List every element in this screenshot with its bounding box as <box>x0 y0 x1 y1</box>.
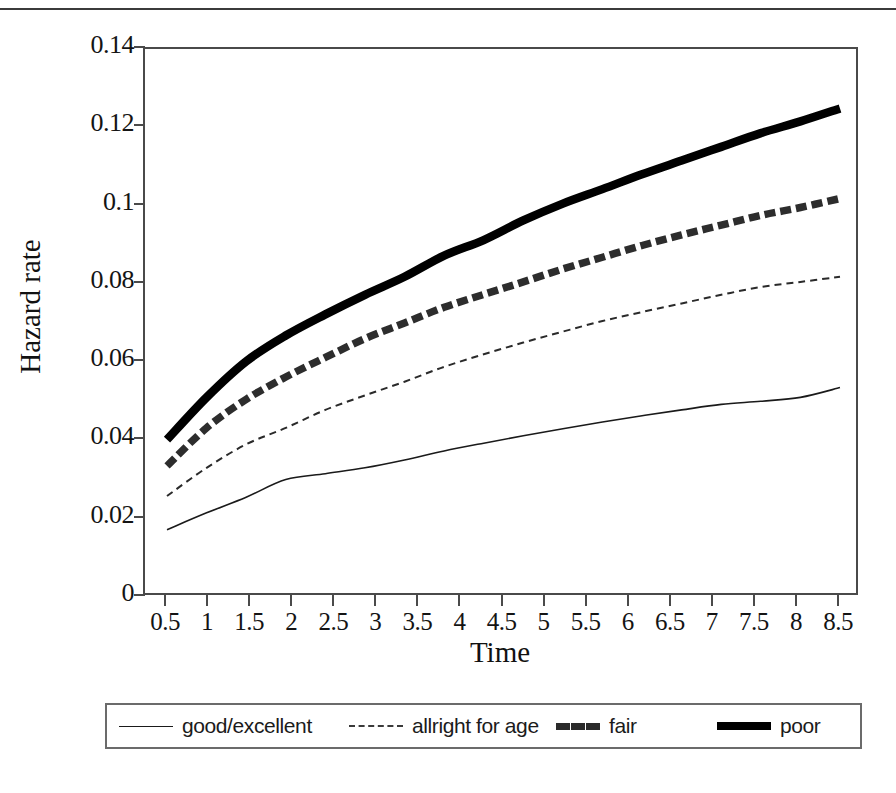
plot-curves <box>145 49 860 597</box>
x-axis-tick-mark <box>290 595 292 606</box>
y-axis-tick-label: 0.14 <box>91 30 135 60</box>
x-axis-tick-label: 5.5 <box>571 608 601 636</box>
series-line-good-excellent <box>167 388 840 530</box>
x-axis-tick-mark <box>837 595 839 606</box>
x-axis-tick-mark <box>458 595 460 606</box>
y-axis-tick-label: 0.1 <box>103 187 134 217</box>
thick-solid-line-icon <box>717 722 771 730</box>
x-axis-tick-mark <box>374 595 376 606</box>
x-axis-tick-mark <box>206 595 208 606</box>
legend-entry-label: poor <box>780 714 820 738</box>
x-axis-tick-label: 8 <box>790 608 802 636</box>
x-axis-tick-label: 3 <box>369 608 381 636</box>
y-axis-tick-label: 0.02 <box>91 500 135 530</box>
y-axis-tick-label: 0.04 <box>91 421 135 451</box>
x-axis-tick-mark <box>501 595 503 606</box>
x-axis-tick-label: 0.5 <box>150 608 180 636</box>
legend-entry[interactable]: allright for age <box>349 705 539 747</box>
x-axis-tick-mark <box>543 595 545 606</box>
x-axis-tick-label: 7 <box>706 608 718 636</box>
y-axis-tick-label: 0 <box>122 578 135 608</box>
series-line-fair <box>167 199 840 466</box>
x-axis-tick-mark <box>164 595 166 606</box>
x-axis-tick-label: 8.5 <box>823 608 853 636</box>
x-axis-tick-label: 4.5 <box>487 608 517 636</box>
x-axis-tick-mark <box>332 595 334 606</box>
x-axis-tick-label: 2.5 <box>318 608 348 636</box>
y-axis-tick-labels: 00.020.040.060.080.10.120.14 <box>48 0 134 793</box>
x-axis-tick-mark <box>669 595 671 606</box>
legend-entry-label: good/excellent <box>182 714 312 738</box>
thick-dashed-line-icon <box>556 723 600 730</box>
legend-entry[interactable]: poor <box>717 705 820 747</box>
x-axis-tick-mark <box>248 595 250 606</box>
x-axis-tick-mark <box>585 595 587 606</box>
x-axis-tick-label: 7.5 <box>739 608 769 636</box>
x-axis-tick-label: 6 <box>622 608 634 636</box>
x-axis-tick-mark <box>416 595 418 606</box>
legend-entry[interactable]: good/excellent <box>119 705 312 747</box>
y-axis-tick-label: 0.12 <box>91 108 135 138</box>
legend-entry-label: allright for age <box>412 714 539 738</box>
legend-entry-label: fair <box>609 714 637 738</box>
legend-box: good/excellentallright for agefairpoor <box>105 703 862 749</box>
series-line-poor <box>167 109 840 440</box>
y-axis-tick-label: 0.06 <box>91 343 135 373</box>
x-axis-tick-label: 4 <box>453 608 465 636</box>
x-axis-tick-label: 1 <box>201 608 213 636</box>
x-axis-tick-mark <box>753 595 755 606</box>
legend-entry[interactable]: fair <box>556 705 637 747</box>
plot-area <box>143 47 858 595</box>
x-axis-tick-mark <box>795 595 797 606</box>
x-axis-tick-label: 2 <box>285 608 297 636</box>
hazard-rate-figure: 00.020.040.060.080.10.120.14 0.511.522.5… <box>0 0 896 793</box>
x-axis-tick-label: 5 <box>538 608 550 636</box>
x-axis-tick-label: 3.5 <box>403 608 433 636</box>
x-axis-title: Time <box>0 636 896 669</box>
x-axis-tick-label: 1.5 <box>234 608 264 636</box>
x-axis-tick-label: 6.5 <box>655 608 685 636</box>
fine-dashed-line-icon <box>349 725 403 727</box>
legend-entries: good/excellentallright for agefairpoor <box>107 705 864 751</box>
x-axis-tick-mark <box>711 595 713 606</box>
x-axis-tick-mark <box>627 595 629 606</box>
y-axis-title: Hazard rate <box>14 207 47 407</box>
thin-solid-line-icon <box>119 726 173 727</box>
y-axis-tick-label: 0.08 <box>91 265 135 295</box>
